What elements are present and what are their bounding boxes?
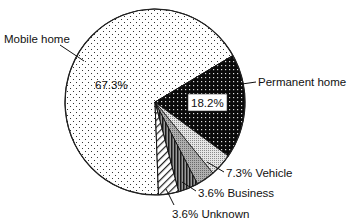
label-mobile-home-pct: 67.3% bbox=[95, 79, 128, 91]
label-vehicle: 7.3% Vehicle bbox=[226, 167, 293, 179]
leader-permanent-home bbox=[242, 82, 256, 84]
label-unknown: 3.6% Unknown bbox=[172, 208, 249, 220]
label-business: 3.6% Business bbox=[198, 187, 274, 199]
label-permanent-home-pct: 18.2% bbox=[191, 97, 224, 109]
label-mobile-home: Mobile home bbox=[4, 33, 70, 45]
label-permanent-home: Permanent home bbox=[258, 76, 346, 88]
pie-chart: Mobile home 67.3% 18.2% Permanent home 7… bbox=[0, 0, 360, 223]
